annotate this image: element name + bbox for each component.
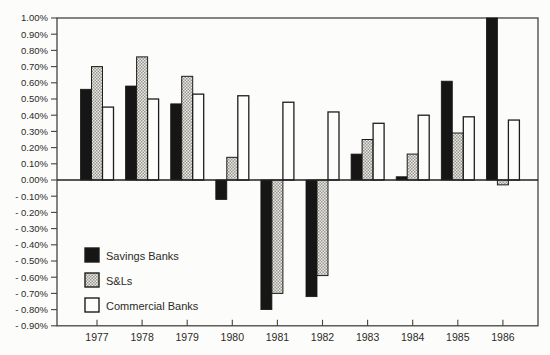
bar-1980-commercial-banks: [238, 96, 249, 180]
x-axis-year-label: 1984: [401, 331, 425, 343]
bar-1983-savings-banks: [351, 154, 362, 180]
legend: Savings Banks S&Ls Commercial Banks: [85, 248, 199, 312]
y-axis-tick-label: - 0.40%: [15, 239, 48, 250]
y-axis-tick-label: - 0.30%: [15, 223, 48, 234]
bar-1982-savings-banks: [306, 180, 317, 297]
bar-1977-savings-banks: [81, 89, 92, 180]
bar-1986-commercial-banks: [508, 120, 519, 180]
y-axis-tick-label: 0.50%: [21, 93, 48, 104]
bar-1979-savings-banks: [171, 104, 182, 180]
y-axis-tick-label: - 0.10%: [15, 191, 48, 202]
bar-1982-commercial-banks: [328, 112, 339, 180]
y-axis-tick-label: 1.00%: [21, 12, 48, 23]
x-axis-year-label: 1981: [266, 331, 290, 343]
y-axis-tick-label: - 0.80%: [15, 304, 48, 315]
x-axis-year-label: 1977: [85, 331, 109, 343]
bar-1978-savings-banks: [126, 86, 137, 180]
chart-canvas: 1.00%0.90%0.80%0.70%0.60%0.50%0.40%0.30%…: [0, 0, 550, 355]
y-axis-tick-label: - 0.70%: [15, 288, 48, 299]
bar-1981-s-ls: [272, 180, 283, 293]
bar-1981-commercial-banks: [283, 102, 294, 180]
y-axis-tick-label: 0.20%: [21, 142, 48, 153]
bar-1978-commercial-banks: [148, 99, 159, 180]
bar-1977-s-ls: [92, 67, 103, 180]
y-axis-tick-label: - 0.60%: [15, 272, 48, 283]
bar-1985-savings-banks: [441, 81, 452, 180]
bar-1984-s-ls: [407, 154, 418, 180]
bar-1977-commercial-banks: [103, 107, 114, 180]
bar-1986-savings-banks: [486, 18, 497, 180]
legend-swatch-commercial-banks: [85, 298, 99, 312]
legend-swatch-sandls: [85, 273, 99, 287]
y-axis-tick-label: - 0.90%: [15, 320, 48, 331]
y-axis-tick-label: 0.10%: [21, 158, 48, 169]
y-axis-tick-label: 0.40%: [21, 110, 48, 121]
y-axis-tick-label: 0.60%: [21, 77, 48, 88]
bar-1980-s-ls: [227, 157, 238, 180]
y-axis-tick-label: - 0.20%: [15, 207, 48, 218]
bar-1981-savings-banks: [261, 180, 272, 310]
legend-label-commercial-banks: Commercial Banks: [106, 300, 199, 312]
x-axis-year-label: 1985: [446, 331, 470, 343]
bar-1984-commercial-banks: [418, 115, 429, 180]
legend-label-savings-banks: Savings Banks: [106, 250, 179, 262]
y-axis-tick-label: 0.00%: [21, 174, 48, 185]
bar-chart-svg: 1.00%0.90%0.80%0.70%0.60%0.50%0.40%0.30%…: [0, 0, 550, 355]
x-axis-year-label: 1979: [176, 331, 200, 343]
bar-1978-s-ls: [137, 57, 148, 180]
x-axis-year-label: 1983: [356, 331, 380, 343]
bar-1985-s-ls: [452, 133, 463, 180]
y-axis-tick-label: 0.80%: [21, 45, 48, 56]
y-axis-tick-label: - 0.50%: [15, 255, 48, 266]
bar-1980-savings-banks: [216, 180, 227, 199]
bar-1983-commercial-banks: [373, 123, 384, 180]
bar-1985-commercial-banks: [463, 117, 474, 180]
x-axis-year-label: 1982: [311, 331, 335, 343]
x-axis-year-label: 1978: [130, 331, 154, 343]
legend-label-sandls: S&Ls: [106, 275, 133, 287]
bars-layer: [81, 18, 520, 310]
bar-1986-s-ls: [497, 180, 508, 185]
y-axis-tick-label: 0.30%: [21, 126, 48, 137]
legend-swatch-savings-banks: [85, 248, 99, 262]
x-axis-year-label: 1986: [491, 331, 515, 343]
bar-1979-commercial-banks: [193, 94, 204, 180]
y-axis-tick-label: 0.90%: [21, 29, 48, 40]
bar-1982-s-ls: [317, 180, 328, 276]
y-axis-tick-label: 0.70%: [21, 61, 48, 72]
x-axis-year-label: 1980: [221, 331, 245, 343]
bar-1979-s-ls: [182, 76, 193, 180]
bar-1983-s-ls: [362, 140, 373, 181]
